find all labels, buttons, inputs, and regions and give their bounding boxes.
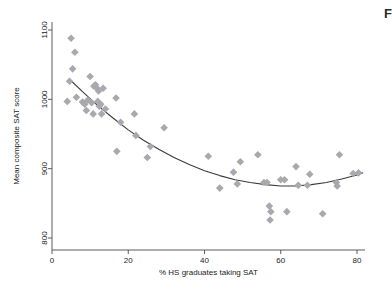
x-tick-label: 60 <box>276 256 285 265</box>
data-point <box>237 158 245 166</box>
data-point <box>319 210 327 218</box>
data-point <box>83 107 91 115</box>
y-tick-label: 800 <box>40 231 49 245</box>
data-point <box>71 48 79 56</box>
data-point <box>112 94 120 102</box>
data-point <box>230 168 238 176</box>
data-point <box>131 110 139 118</box>
data-point <box>254 151 262 159</box>
data-point <box>89 110 97 118</box>
x-tick-label: 40 <box>200 256 209 265</box>
data-point <box>66 78 74 86</box>
data-point <box>73 93 81 101</box>
data-point <box>113 148 121 156</box>
scatter-points <box>63 35 362 224</box>
x-axis-title: % HS graduates taking SAT <box>159 268 258 277</box>
fit-line <box>70 79 363 186</box>
data-point <box>233 180 241 188</box>
data-point <box>117 118 125 126</box>
data-point <box>306 170 314 178</box>
data-point <box>216 184 224 192</box>
y-tick-label: 1100 <box>40 21 49 39</box>
data-point <box>267 208 275 216</box>
data-point <box>86 73 94 81</box>
x-tick-label: 20 <box>124 256 133 265</box>
data-point <box>336 151 344 159</box>
figure-container: 80090010001100020406080% HS graduates ta… <box>0 0 392 299</box>
y-axis-title: Mean composite SAT score <box>12 87 21 185</box>
data-point <box>283 208 291 216</box>
y-axis-ticks: 80090010001100 <box>40 21 52 245</box>
data-point <box>266 216 274 224</box>
plot-root: 80090010001100020406080% HS graduates ta… <box>12 21 365 277</box>
x-tick-label: 80 <box>353 256 362 265</box>
y-tick-label: 1000 <box>40 90 49 108</box>
data-point <box>160 124 168 132</box>
data-point <box>147 143 155 151</box>
data-point <box>304 182 312 190</box>
data-point <box>294 182 302 190</box>
data-point <box>67 35 75 43</box>
data-point <box>205 152 213 160</box>
data-point <box>69 65 77 73</box>
data-point <box>144 154 152 162</box>
y-tick-label: 900 <box>40 161 49 175</box>
data-point <box>266 202 274 210</box>
x-tick-label: 0 <box>50 256 55 265</box>
data-point <box>292 163 300 171</box>
data-point <box>63 98 71 106</box>
data-point <box>281 176 289 184</box>
scatter-chart: 80090010001100020406080% HS graduates ta… <box>0 0 392 299</box>
x-axis-ticks: 020406080 <box>50 250 362 265</box>
corner-label: F <box>384 7 392 22</box>
